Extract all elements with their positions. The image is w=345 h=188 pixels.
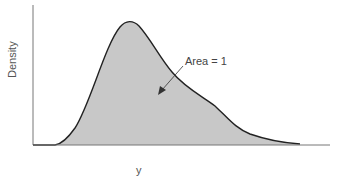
density-chart	[0, 0, 345, 188]
area-annotation: Area = 1	[185, 55, 227, 67]
y-axis-label: Density	[6, 41, 18, 78]
density-area	[33, 22, 300, 145]
x-axis-label: y	[136, 164, 142, 176]
